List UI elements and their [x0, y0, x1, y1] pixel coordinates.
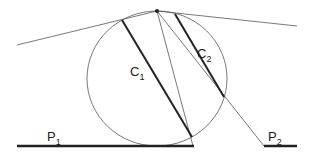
- ray-to-p1-end: [157, 11, 193, 146]
- plane-p2-label: P2: [268, 129, 282, 147]
- apex-point: [155, 9, 159, 13]
- diagram-canvas: C1 C2 P1 P2: [0, 0, 311, 158]
- chord-c1-label: C1: [130, 64, 144, 82]
- chord-c2-label: C2: [197, 46, 211, 64]
- ray-to-p2-start: [157, 11, 264, 146]
- plane-p1-label: P1: [47, 129, 61, 147]
- tangent-line-left: [17, 11, 157, 45]
- geometry-diagram: C1 C2 P1 P2: [0, 0, 311, 158]
